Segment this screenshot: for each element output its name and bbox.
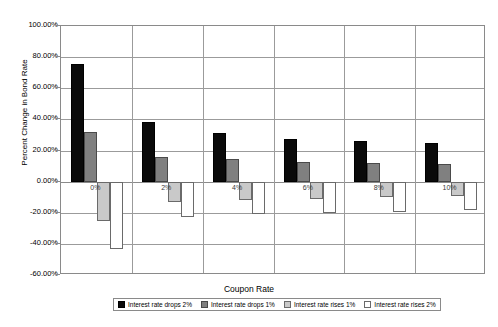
y-axis-tick-mark: [56, 56, 60, 57]
legend-swatch-icon: [201, 301, 208, 308]
y-axis-tick-label: 0.00%: [0, 177, 58, 185]
y-axis-tick-mark: [56, 25, 60, 26]
y-axis-tick-mark: [56, 118, 60, 119]
x-axis-tick-label: 2%: [131, 184, 202, 191]
bar-group: [344, 26, 415, 273]
x-axis-tick-label: 0%: [60, 184, 131, 191]
bar-group: [203, 26, 274, 273]
bar-2pct-series-0: [142, 122, 155, 182]
x-axis-tick-label: 8%: [343, 184, 414, 191]
bar-group: [61, 26, 132, 273]
bar-0pct-series-3: [110, 182, 123, 249]
bar-group: [132, 26, 203, 273]
legend-item: Interest rate rises 2%: [364, 301, 435, 308]
x-axis-tick-label: 4%: [202, 184, 273, 191]
y-axis-tick-label: -20.00%: [0, 208, 58, 216]
bar-8pct-series-1: [367, 163, 380, 182]
y-axis-tick-mark: [56, 243, 60, 244]
bar-10pct-series-1: [438, 164, 451, 182]
legend-swatch-icon: [284, 301, 291, 308]
y-axis-title: Percent Change in Bond Rate: [20, 23, 29, 203]
legend-item: Interest rate rises 1%: [284, 301, 355, 308]
legend-label: Interest rate rises 2%: [374, 301, 435, 308]
y-axis-tick-label: 20.00%: [0, 146, 58, 154]
x-axis-tick-label: 10%: [414, 184, 485, 191]
bar-4pct-series-0: [213, 133, 226, 182]
y-axis-tick-label: 60.00%: [0, 83, 58, 91]
legend-label: Interest rate rises 1%: [294, 301, 355, 308]
y-axis-tick-mark: [56, 181, 60, 182]
y-axis-tick-mark: [56, 212, 60, 213]
legend-swatch-icon: [118, 301, 125, 308]
bar-0pct-series-1: [84, 132, 97, 182]
legend-label: Interest rate drops 2%: [128, 301, 192, 308]
y-axis-tick-label: 80.00%: [0, 52, 58, 60]
bar-6pct-series-0: [284, 139, 297, 182]
legend-swatch-icon: [364, 301, 371, 308]
bar-0pct-series-0: [71, 64, 84, 181]
legend-item: Interest rate drops 1%: [201, 301, 275, 308]
bond-rate-bar-chart: Percent Change in Bond Rate Coupon Rate …: [0, 0, 498, 327]
y-axis-tick-label: -60.00%: [0, 270, 58, 278]
legend-label: Interest rate drops 1%: [211, 301, 275, 308]
bar-group: [415, 26, 486, 273]
bar-4pct-series-1: [226, 159, 239, 182]
y-axis-tick-mark: [56, 87, 60, 88]
y-axis-tick-label: 40.00%: [0, 114, 58, 122]
bar-2pct-series-1: [155, 157, 168, 182]
y-axis-tick-mark: [56, 150, 60, 151]
bar-8pct-series-0: [354, 141, 367, 181]
bar-6pct-series-1: [297, 162, 310, 181]
x-axis-title: Coupon Rate: [0, 284, 498, 294]
y-axis-tick-mark: [56, 274, 60, 275]
bar-10pct-series-0: [425, 143, 438, 182]
y-axis-tick-label: 100.00%: [0, 21, 58, 29]
chart-legend: Interest rate drops 2%Interest rate drop…: [113, 298, 441, 311]
y-axis-tick-label: -40.00%: [0, 239, 58, 247]
plot-area: [60, 25, 485, 274]
bar-group: [274, 26, 345, 273]
legend-item: Interest rate drops 2%: [118, 301, 192, 308]
x-axis-tick-label: 6%: [273, 184, 344, 191]
